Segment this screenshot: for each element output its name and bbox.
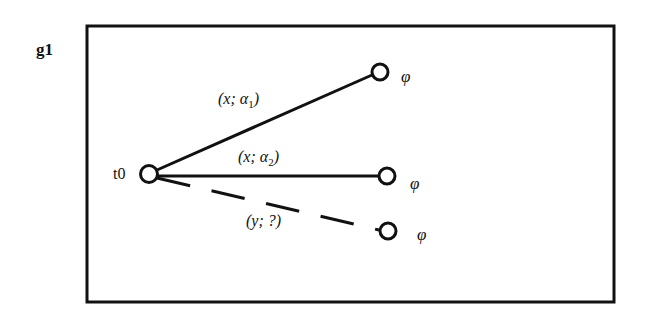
root-node [141, 166, 158, 183]
graph-frame [87, 26, 614, 302]
diagram-canvas [0, 0, 650, 314]
root-node-label: t0 [113, 165, 125, 183]
leaf-3-phi-label: φ [417, 225, 426, 245]
leaf-node-1 [372, 64, 388, 80]
edge-2-label: (x; α2) [238, 148, 279, 168]
edge-3-label: (y; ?) [246, 212, 281, 230]
leaf-node-3 [380, 223, 396, 239]
edge-1-label: (x; α1) [218, 90, 259, 110]
leaf-1-phi-label: φ [401, 67, 410, 87]
leaf-2-phi-label: φ [410, 174, 419, 194]
leaf-node-2 [379, 168, 395, 184]
graph-label: g1 [36, 40, 53, 60]
